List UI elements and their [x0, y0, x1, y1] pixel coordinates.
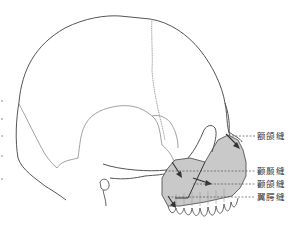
mastoid-outline: [100, 179, 109, 206]
skull-diagram: 额颌缝 颧颞缝 颧颌缝 翼腭缝: [0, 0, 295, 232]
edge-mark: [1, 118, 3, 120]
squamosal-suture: [57, 106, 175, 168]
occipital-outline: [16, 102, 66, 200]
edge-mark: [1, 100, 3, 102]
edge-mark: [1, 155, 3, 157]
lambdoid-suture: [19, 104, 57, 168]
label-zygomaticomaxillary-suture: 颧颌缝: [257, 179, 285, 189]
skull-illustration: [0, 0, 295, 232]
edge-mark: [1, 135, 3, 137]
label-zygomaticotemporal-suture: 颧颞缝: [257, 166, 285, 176]
label-pterygopalatine-suture: 翼腭缝: [257, 192, 285, 202]
coronal-suture: [152, 19, 165, 140]
cranium-outline: [19, 16, 235, 152]
edge-mark: [1, 178, 3, 180]
label-frontomaxillary-suture: 额颌缝: [257, 131, 285, 141]
